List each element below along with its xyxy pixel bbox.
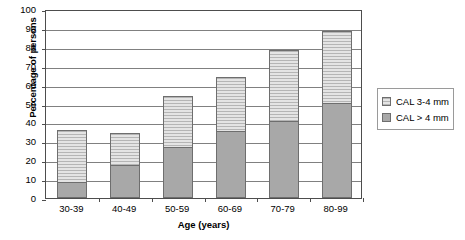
bar-40-49: [110, 134, 140, 198]
y-axis-tick-label: 50: [6, 100, 36, 110]
y-axis-tick: [42, 162, 46, 163]
bar-segment-cal-3-4mm: [57, 130, 87, 183]
y-axis-tick-label: 80: [6, 43, 36, 53]
bar-segment-cal-3-4mm: [110, 133, 140, 166]
x-axis-tick-labels: 30-3940-4950-5960-6970-7980-99: [45, 203, 362, 217]
x-axis-tick: [152, 198, 153, 202]
bar-80-99: [322, 32, 352, 198]
bar-50-59: [163, 97, 193, 198]
y-axis-tick-label: 30: [6, 137, 36, 147]
bar-segment-cal-gt-4mm: [163, 147, 193, 198]
x-axis-tick-label: 30-39: [45, 203, 98, 215]
y-axis-tick-label: 40: [6, 118, 36, 128]
gridline: [46, 49, 361, 50]
bar-segment-cal-3-4mm: [269, 50, 299, 123]
y-axis-tick-label: 70: [6, 62, 36, 72]
x-axis-tick: [257, 198, 258, 202]
y-axis-tick-label: 100: [6, 5, 36, 15]
gridline: [46, 106, 361, 107]
bar-segment-cal-gt-4mm: [322, 103, 352, 199]
y-axis-tick: [42, 106, 46, 107]
bar-segment-cal-gt-4mm: [269, 121, 299, 198]
y-axis-tick: [42, 68, 46, 69]
bar-70-79: [269, 51, 299, 198]
y-axis-tick: [42, 181, 46, 182]
legend-item: CAL 3-4 mm: [382, 93, 449, 109]
x-axis-tick-label: 60-69: [204, 203, 257, 215]
y-axis-tick: [42, 11, 46, 12]
bar-segment-cal-gt-4mm: [57, 182, 87, 198]
x-axis-tick-label: 70-79: [256, 203, 309, 215]
x-axis-title: Age (years): [45, 219, 362, 230]
bar-segment-cal-gt-4mm: [110, 165, 140, 198]
legend-swatch-icon: [382, 113, 391, 122]
y-axis-tick-label: 90: [6, 24, 36, 34]
y-axis-tick-label: 10: [6, 175, 36, 185]
y-axis-tick: [42, 124, 46, 125]
x-axis-tick: [205, 198, 206, 202]
x-axis-tick-label: 40-49: [98, 203, 151, 215]
gridline: [46, 30, 361, 31]
gridline: [46, 181, 361, 182]
bar-60-69: [216, 78, 246, 198]
y-axis-tick: [42, 143, 46, 144]
x-axis-tick: [310, 198, 311, 202]
legend-label: CAL 3-4 mm: [396, 96, 449, 107]
y-axis-tick-labels: 0102030405060708090100: [6, 10, 36, 199]
y-axis-tick-label: 20: [6, 156, 36, 166]
bar-segment-cal-3-4mm: [322, 31, 352, 104]
plot-area: [45, 10, 362, 199]
y-axis-tick: [42, 30, 46, 31]
bar-segment-cal-3-4mm: [216, 77, 246, 132]
gridline: [46, 143, 361, 144]
bar-segment-cal-3-4mm: [163, 96, 193, 148]
bar-30-39: [57, 131, 87, 198]
x-axis-tick-label: 50-59: [151, 203, 204, 215]
bar-segment-cal-gt-4mm: [216, 131, 246, 198]
chart-legend: CAL 3-4 mmCAL > 4 mm: [377, 88, 454, 130]
stacked-bar-chart: Percentage of persons 010203040506070809…: [0, 0, 465, 240]
y-axis-tick: [42, 87, 46, 88]
y-axis-tick: [42, 200, 46, 201]
gridline: [46, 124, 361, 125]
gridline: [46, 162, 361, 163]
y-axis-tick-label: 60: [6, 81, 36, 91]
x-axis-tick: [99, 198, 100, 202]
legend-item: CAL > 4 mm: [382, 109, 449, 125]
legend-swatch-icon: [382, 97, 391, 106]
x-axis-tick: [363, 198, 364, 202]
gridline: [46, 87, 361, 88]
y-axis-tick-label: 0: [6, 194, 36, 204]
x-axis-tick-label: 80-99: [309, 203, 362, 215]
y-axis-tick: [42, 49, 46, 50]
legend-label: CAL > 4 mm: [396, 112, 449, 123]
gridline: [46, 68, 361, 69]
